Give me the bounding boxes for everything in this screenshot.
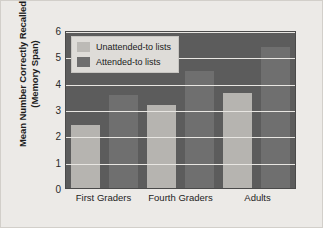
legend-swatch-attended-icon <box>77 57 90 67</box>
y-tick-5: 5 <box>41 52 61 63</box>
bar-adults-unattended <box>223 93 252 188</box>
y-tick-0: 0 <box>41 184 61 195</box>
legend-label-unattended: Unattended-to lists <box>96 42 171 52</box>
bar-first-graders-attended <box>109 95 138 188</box>
legend: Unattended-to lists Attended-to lists <box>71 36 179 73</box>
y-axis-title-line-2: (Memory Span) <box>29 40 41 107</box>
y-tick-4: 4 <box>41 78 61 89</box>
x-axis-tick-labels: First GradersFourth GradersAdults <box>65 192 296 203</box>
x-tick-first-graders: First Graders <box>65 192 142 203</box>
bar-adults-attended <box>261 47 290 188</box>
gridline-6 <box>66 32 295 33</box>
bar-first-graders-unattended <box>71 125 100 188</box>
legend-item-unattended: Unattended-to lists <box>77 41 171 53</box>
bar-fourth-graders-attended <box>185 71 214 188</box>
y-tick-2: 2 <box>41 131 61 142</box>
x-tick-fourth-graders: Fourth Graders <box>142 192 219 203</box>
y-tick-6: 6 <box>41 26 61 37</box>
plot-area: Unattended-to lists Attended-to lists <box>65 31 296 189</box>
y-tick-3: 3 <box>41 105 61 116</box>
gridline-1 <box>66 164 295 165</box>
legend-swatch-unattended-icon <box>77 42 90 52</box>
gridline-2 <box>66 137 295 138</box>
gridline-3 <box>66 111 295 112</box>
bar-chart-figure: Mean Number Correctly Recalled (Memory S… <box>0 0 323 228</box>
legend-item-attended: Attended-to lists <box>77 56 171 68</box>
y-axis-tick-labels: 6543210 <box>41 31 61 189</box>
legend-label-attended: Attended-to lists <box>96 57 161 67</box>
y-axis-title-line-1: Mean Number Correctly Recalled <box>17 1 29 147</box>
bar-fourth-graders-unattended <box>147 105 176 188</box>
x-tick-adults: Adults <box>219 192 296 203</box>
gridline-4 <box>66 85 295 86</box>
y-tick-1: 1 <box>41 157 61 168</box>
